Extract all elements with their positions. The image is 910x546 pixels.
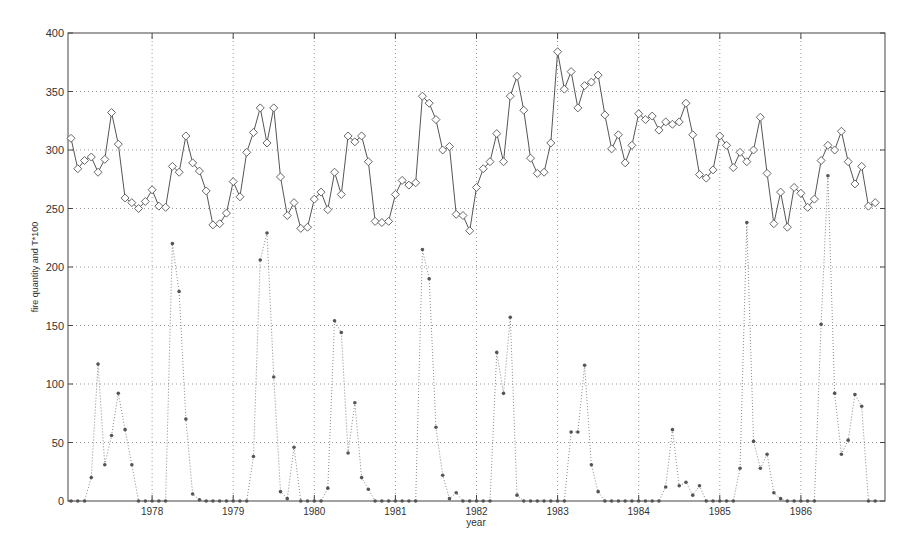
x-tick-label: 1984 [628,506,651,517]
y-tick-label: 200 [46,261,64,273]
x-axis-label: year [466,517,486,528]
y-axis-label: fire quantity and T*100 [30,222,40,312]
x-tick-label: 1985 [709,506,732,517]
y-tick-label: 50 [52,437,64,449]
line-chart: 050100150200250300350400 197819791980198… [0,0,910,546]
y-tick-label: 350 [46,86,64,98]
x-tick-label: 1979 [222,506,245,517]
x-tick-label: 1982 [465,506,488,517]
y-tick-label: 100 [46,378,64,390]
x-tick-label: 1983 [546,506,569,517]
x-tick-label: 1978 [141,506,164,517]
y-tick-label: 400 [46,27,64,39]
y-tick-label: 0 [58,495,64,507]
y-tick-label: 300 [46,144,64,156]
x-tick-label: 1980 [303,506,326,517]
y-tick-label: 150 [46,320,64,332]
x-tick-label: 1981 [384,506,407,517]
plot-area: 050100150200250300350400 197819791980198… [46,27,885,517]
x-tick-label: 1986 [790,506,813,517]
y-tick-label: 250 [46,203,64,215]
